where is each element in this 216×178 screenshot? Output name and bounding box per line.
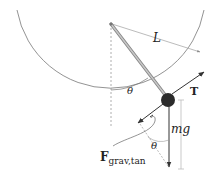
pivot-point	[109, 22, 112, 25]
tension-label: T	[190, 85, 199, 98]
tangential-force-arrow	[138, 104, 163, 123]
tangential-force-label: Fgrav,tan	[100, 150, 146, 166]
angle-label-pivot: θ	[127, 85, 133, 96]
tension-arrow	[172, 72, 204, 94]
weight-label: mg	[171, 122, 190, 136]
length-label: L	[152, 31, 161, 45]
force-label-leader	[113, 116, 155, 146]
tangential-force-subscript: grav,tan	[109, 156, 146, 166]
swing-arc	[17, 10, 204, 88]
pendulum-bob	[161, 93, 175, 107]
pendulum-diagram: L θ T mg θ Fgrav,tan	[0, 0, 216, 178]
angle-label-force: θ	[151, 140, 157, 151]
